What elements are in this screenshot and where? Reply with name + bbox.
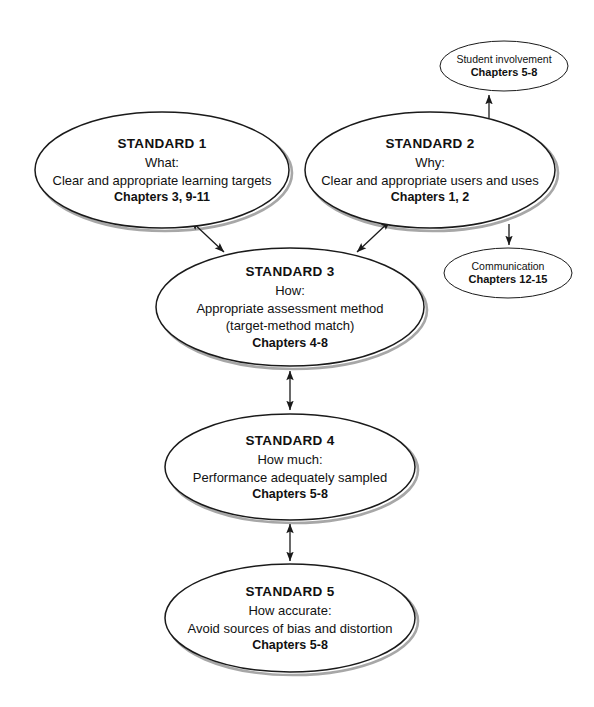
ellipse-standard-2[interactable] xyxy=(305,112,555,228)
connector-s3-to-s2 xyxy=(357,221,390,252)
ellipse-standard-1[interactable] xyxy=(35,112,289,228)
ellipse-student-involvement[interactable] xyxy=(440,41,568,91)
ellipse-standard-3[interactable] xyxy=(156,248,424,366)
diagram-canvas xyxy=(0,0,594,707)
ellipse-standard-4[interactable] xyxy=(165,414,415,520)
ellipse-communication[interactable] xyxy=(444,248,572,298)
standards-diagram: STANDARD 1What:Clear and appropriate lea… xyxy=(0,0,594,707)
ellipse-standard-5[interactable] xyxy=(165,564,415,672)
ellipse-layer xyxy=(35,41,572,672)
